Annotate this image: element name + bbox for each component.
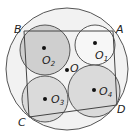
- label-a: A: [115, 23, 124, 36]
- center-point-o4: [92, 88, 96, 92]
- center-point-o3: [43, 97, 47, 101]
- geometry-diagram: B A C D O O1 O2 O3 O4: [0, 0, 136, 136]
- center-point-o: [65, 68, 69, 72]
- circle-o2: [20, 25, 70, 75]
- label-c: C: [18, 116, 26, 129]
- center-point-o1: [93, 41, 97, 45]
- label-b: B: [14, 23, 22, 36]
- label-o: O: [70, 62, 79, 75]
- center-point-o2: [42, 46, 46, 50]
- label-d: D: [117, 103, 125, 116]
